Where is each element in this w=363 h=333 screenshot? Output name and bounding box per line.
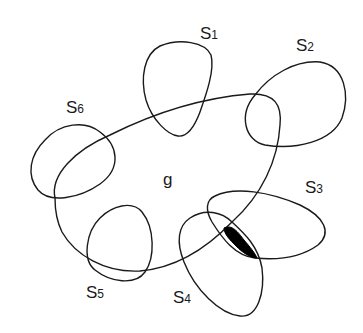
label-s3: S3 <box>305 178 323 197</box>
label-g: g <box>163 170 172 189</box>
label-s5: S5 <box>86 283 104 302</box>
set-s6-outline <box>31 125 115 198</box>
set-s1-outline <box>143 42 212 136</box>
label-s1: S1 <box>200 24 218 43</box>
set-s4-outline <box>179 212 262 316</box>
label-s2: S2 <box>296 36 314 55</box>
set-s2-outline <box>245 62 345 147</box>
set-s3-outline <box>207 191 325 259</box>
label-s6: S6 <box>66 98 84 117</box>
label-s4: S4 <box>173 288 191 307</box>
set-overlap-diagram: g S1 S2 S3 S4 S5 S6 <box>0 0 363 333</box>
